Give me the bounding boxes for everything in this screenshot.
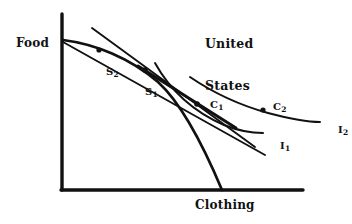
chart-title-line-1: United bbox=[205, 37, 253, 51]
point-label-s2-sub: 2 bbox=[113, 70, 118, 79]
curve-label-i2-base: I bbox=[338, 124, 343, 135]
point-label-c2: C2 bbox=[259, 90, 286, 124]
curve-label-i1: I1 bbox=[266, 129, 290, 163]
point-label-c1-sub: 1 bbox=[218, 103, 223, 112]
curve-label-i1-base: I bbox=[280, 140, 285, 151]
point-label-c1-base: C bbox=[210, 99, 218, 110]
x-axis-label: Clothing bbox=[195, 199, 255, 212]
point-label-c1: C1 bbox=[196, 88, 223, 122]
point-label-c2-base: C bbox=[273, 101, 281, 112]
point-dot-s1 bbox=[142, 67, 148, 73]
diagram-canvas bbox=[0, 0, 352, 224]
curve-label-i1-sub: 1 bbox=[285, 144, 290, 153]
curve-label-i2: I2 bbox=[324, 113, 348, 147]
point-label-s1-sub: 1 bbox=[152, 90, 157, 99]
economics-diagram: Food Clothing United States S2 S1 C1 C2 … bbox=[0, 0, 352, 224]
curve-label-i2-sub: 2 bbox=[343, 128, 348, 137]
y-axis-label: Food bbox=[16, 37, 49, 50]
point-label-c2-sub: 2 bbox=[281, 105, 286, 114]
point-label-s2: S2 bbox=[92, 55, 118, 89]
point-dot-s2 bbox=[96, 47, 101, 52]
point-label-s1: S1 bbox=[131, 75, 157, 109]
